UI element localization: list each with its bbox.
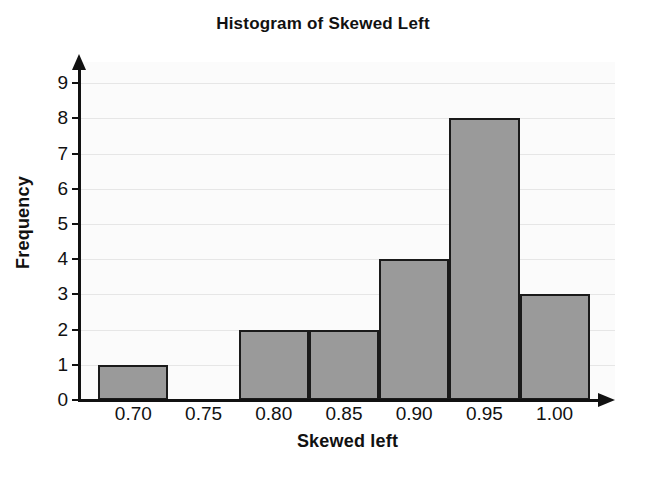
- y-axis-tick-label: 4: [42, 249, 68, 268]
- bar-series: [80, 62, 615, 400]
- y-axis-tick: [72, 258, 79, 260]
- y-axis-tick-label: 9: [42, 73, 68, 92]
- y-axis-tick-label: 3: [42, 284, 68, 303]
- histogram-bar: [449, 118, 519, 400]
- page-title: Histogram of Skewed Left: [0, 14, 646, 34]
- histogram-bar: [379, 259, 449, 400]
- y-axis-tick-label: 6: [42, 179, 68, 198]
- y-axis-tick: [72, 188, 79, 190]
- y-axis-tick: [72, 153, 79, 155]
- y-axis-tick: [72, 223, 79, 225]
- x-axis-tick-label: 0.95: [444, 404, 524, 423]
- y-axis-tick-label: 7: [42, 144, 68, 163]
- x-axis-arrow-icon: [598, 393, 615, 407]
- y-axis-arrow-icon: [72, 54, 86, 70]
- y-axis-tick: [72, 399, 79, 401]
- x-axis-title: Skewed left: [80, 431, 615, 452]
- x-axis-tick-label: 0.85: [304, 404, 384, 423]
- histogram-bar: [309, 330, 379, 400]
- y-axis-tick: [72, 82, 79, 84]
- histogram-bar: [98, 365, 168, 400]
- y-axis-tick: [72, 293, 79, 295]
- histogram-bar: [520, 294, 590, 400]
- y-axis-tick-label: 8: [42, 108, 68, 127]
- histogram-figure: Histogram of Skewed Left 0123456789 0.70…: [0, 0, 646, 482]
- x-axis-tick-label: 1.00: [515, 404, 595, 423]
- x-axis-tick-label: 0.90: [374, 404, 454, 423]
- y-axis-tick-label: 5: [42, 214, 68, 233]
- y-axis-tick: [72, 364, 79, 366]
- x-axis-tick-label: 0.80: [234, 404, 314, 423]
- y-axis-tick-label: 2: [42, 320, 68, 339]
- histogram-bar: [239, 330, 309, 400]
- y-axis-tick-labels: 0123456789: [34, 0, 68, 482]
- y-axis-tick: [72, 117, 79, 119]
- y-axis-tick-label: 1: [42, 355, 68, 374]
- x-axis-tick-label: 0.75: [164, 404, 244, 423]
- x-axis-tick-label: 0.70: [93, 404, 173, 423]
- y-axis-tick-label: 0: [42, 390, 68, 409]
- y-axis-tick: [72, 329, 79, 331]
- plot-area: [80, 62, 615, 400]
- x-axis-line: [78, 399, 602, 402]
- y-axis-title: Frequency: [13, 153, 34, 293]
